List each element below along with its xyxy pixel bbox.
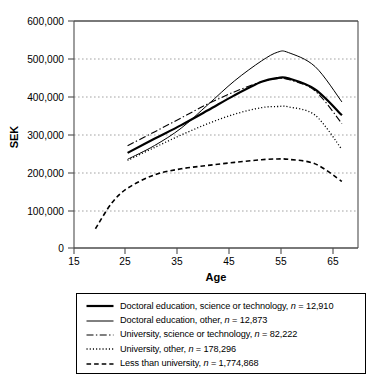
y-axis-tick-labels: 600,000 500,000 400,000 300,000 200,000 … (27, 16, 64, 254)
legend-item-label: Doctoral education, science or technolog… (120, 301, 333, 312)
x-axis-ticks (74, 248, 333, 254)
gridlines (74, 59, 358, 211)
series-line-3 (128, 106, 342, 160)
legend-item-label: University, science or technology, n = 8… (120, 329, 297, 340)
legend-item[interactable]: University, other, n = 178,296 (86, 342, 362, 356)
income-by-age-line-chart: 600,000 500,000 400,000 300,000 200,000 … (0, 0, 374, 286)
ytick-label-0: 0 (58, 243, 64, 254)
x-axis-tick-labels: 15 25 35 45 55 65 (68, 256, 339, 267)
legend-item[interactable]: Doctoral education, other, n = 12,873 (86, 313, 362, 327)
legend-item-label: Less than university, n = 1,774,868 (120, 358, 259, 369)
legend-box: Doctoral education, science or technolog… (76, 293, 366, 374)
legend-container: Doctoral education, science or technolog… (0, 286, 374, 391)
legend-line-swatch-dashed (86, 358, 114, 370)
legend-n-symbol: n (203, 358, 208, 368)
xtick-label-15: 15 (68, 256, 80, 267)
x-axis-title: Age (206, 271, 227, 283)
plot-frame (74, 21, 358, 248)
legend-item[interactable]: Doctoral education, science or technolog… (86, 299, 362, 313)
legend-line-swatch-solid-thin (86, 315, 114, 327)
legend-n-symbol: n (188, 344, 193, 354)
xtick-label-35: 35 (171, 256, 183, 267)
xtick-label-65: 65 (327, 256, 339, 267)
series-line-4 (95, 159, 341, 229)
legend-item[interactable]: University, science or technology, n = 8… (86, 328, 362, 342)
xtick-label-45: 45 (223, 256, 235, 267)
ytick-label-600000: 600,000 (27, 16, 64, 27)
y-axis-title: SEK (8, 126, 20, 149)
ytick-label-300000: 300,000 (27, 130, 64, 141)
chart-container: 600,000 500,000 400,000 300,000 200,000 … (0, 0, 374, 286)
ytick-label-500000: 500,000 (27, 54, 64, 65)
series-line-1 (128, 51, 342, 159)
ytick-label-200000: 200,000 (27, 168, 64, 179)
ytick-label-400000: 400,000 (27, 92, 64, 103)
series-line-0 (128, 77, 342, 153)
legend-item-label: University, other, n = 178,296 (120, 344, 236, 355)
ytick-label-100000: 100,000 (27, 206, 64, 217)
legend-n-symbol: n (291, 301, 296, 311)
legend-n-symbol: n (255, 329, 260, 339)
legend-line-swatch-dotted (86, 343, 114, 355)
legend-item[interactable]: Less than university, n = 1,774,868 (86, 357, 362, 371)
legend-item-list: Doctoral education, science or technolog… (86, 299, 362, 371)
data-series-layer (95, 51, 341, 229)
xtick-label-55: 55 (275, 256, 287, 267)
legend-n-symbol: n (225, 315, 230, 325)
legend-line-swatch-dash-dot (86, 329, 114, 341)
legend-line-swatch-solid-thick (86, 300, 114, 312)
y-axis-ticks (68, 21, 74, 248)
xtick-label-25: 25 (119, 256, 131, 267)
legend-item-label: Doctoral education, other, n = 12,873 (120, 315, 267, 326)
